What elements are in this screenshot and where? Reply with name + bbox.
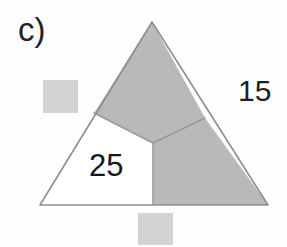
scan-square-left	[43, 80, 78, 113]
label-left-region-value: 25	[89, 150, 123, 181]
panel-label: c)	[18, 13, 46, 46]
scan-square-bottom	[138, 213, 173, 245]
figure-container: c) 15 25	[0, 0, 287, 247]
label-outer-right-value: 15	[238, 76, 271, 106]
region-group	[40, 22, 268, 205]
